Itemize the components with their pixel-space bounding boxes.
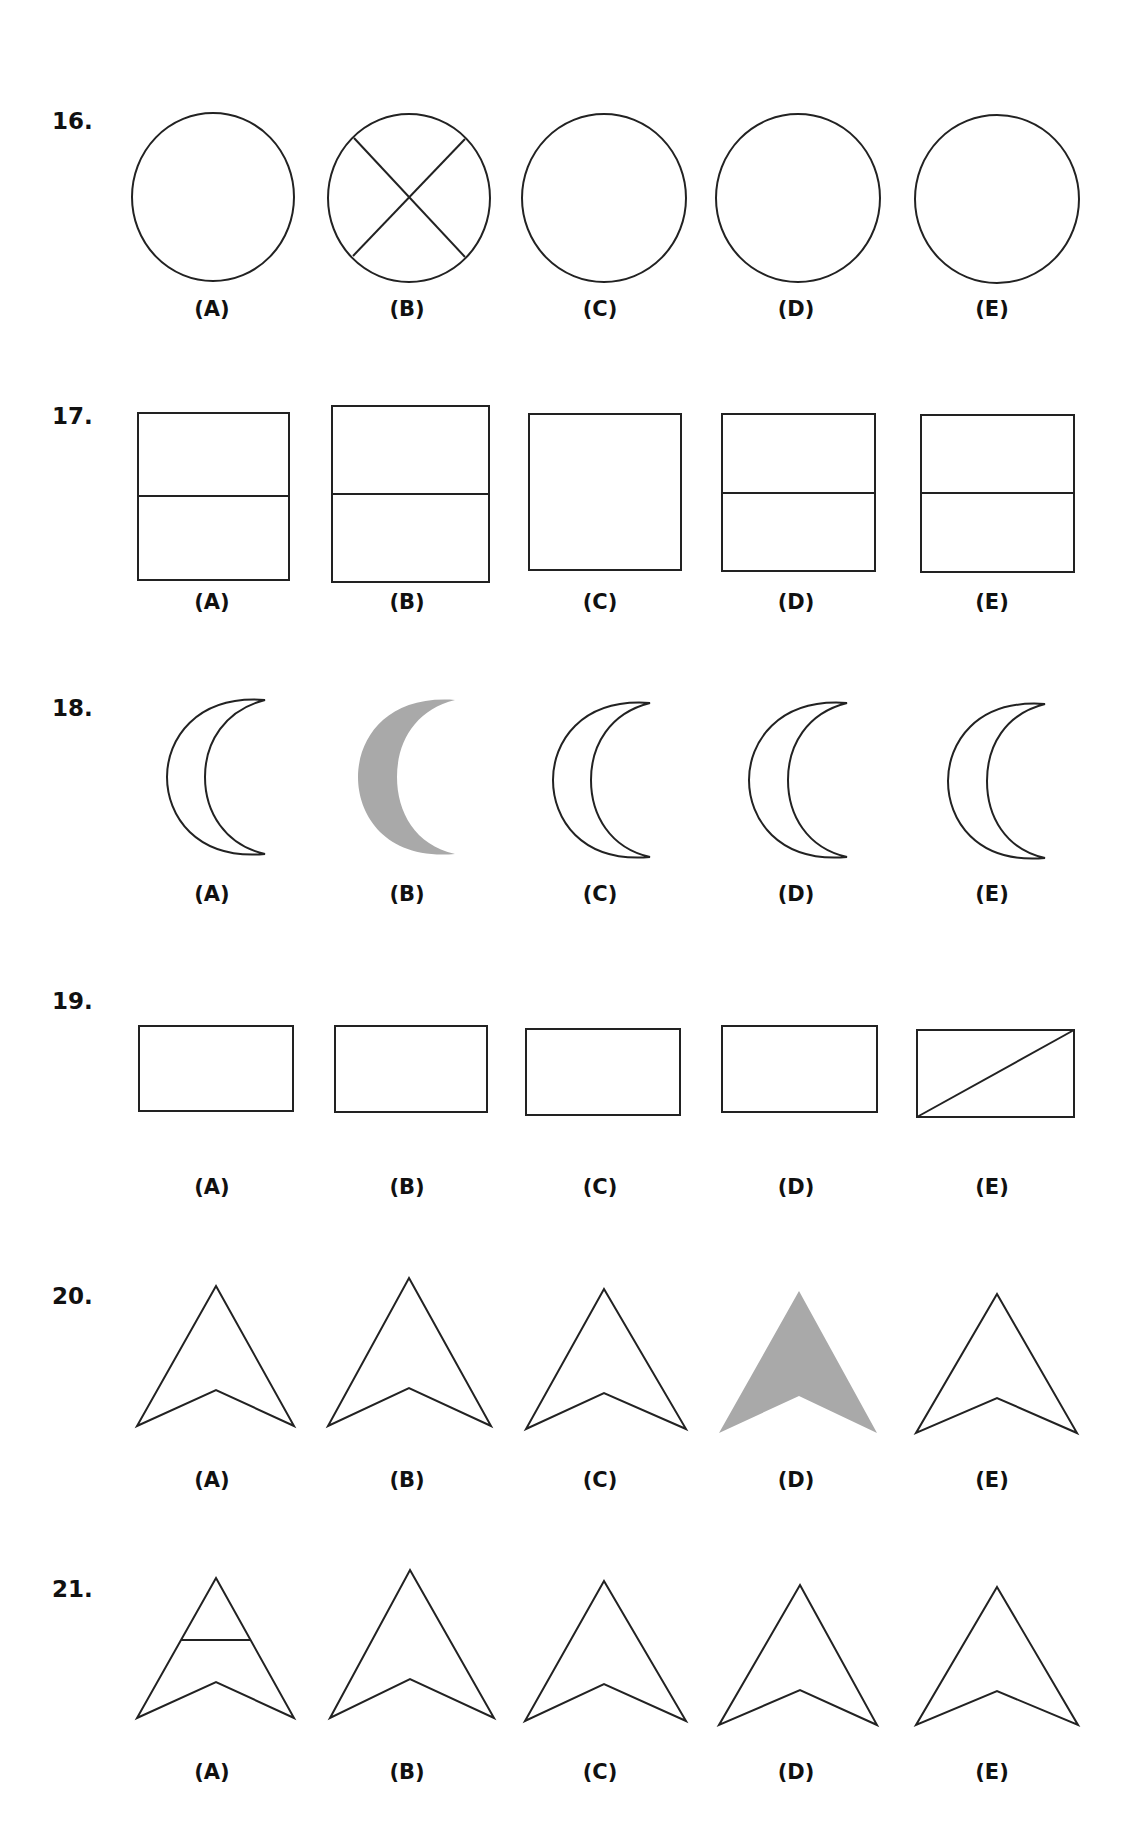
crescent-option-a[interactable] xyxy=(167,700,265,855)
option-label-17e: (E) xyxy=(952,590,1032,614)
question-16-figures xyxy=(132,113,1079,283)
option-label-17d: (D) xyxy=(756,590,836,614)
option-label-17c: (C) xyxy=(560,590,640,614)
arrowhead-option-e[interactable] xyxy=(916,1587,1078,1725)
arrowhead-option-c[interactable] xyxy=(526,1289,686,1429)
option-label-20b: (B) xyxy=(367,1468,447,1492)
crescent-option-b-shaded[interactable] xyxy=(358,700,455,855)
option-label-18c: (C) xyxy=(560,882,640,906)
rect-option-d[interactable] xyxy=(722,414,875,571)
circle-x-option-b[interactable] xyxy=(328,114,490,282)
option-label-16e: (E) xyxy=(952,297,1032,321)
question-19-figures xyxy=(139,1026,1074,1117)
arrowhead-option-d[interactable] xyxy=(719,1585,877,1725)
option-label-16c: (C) xyxy=(560,297,640,321)
circle-option-e[interactable] xyxy=(915,115,1079,283)
rect-option-c[interactable] xyxy=(529,414,681,570)
option-label-19d: (D) xyxy=(756,1175,836,1199)
wide-rect-option-c[interactable] xyxy=(526,1029,680,1115)
option-label-20e: (E) xyxy=(952,1468,1032,1492)
figures-canvas xyxy=(0,0,1129,1838)
circle-option-a[interactable] xyxy=(132,113,294,281)
option-label-18a: (A) xyxy=(172,882,252,906)
option-label-21d: (D) xyxy=(756,1760,836,1784)
wide-rect-option-d[interactable] xyxy=(722,1026,877,1112)
option-label-16b: (B) xyxy=(367,297,447,321)
arrowhead-option-b[interactable] xyxy=(328,1278,491,1426)
option-label-16d: (D) xyxy=(756,297,836,321)
circle-option-c[interactable] xyxy=(522,114,686,282)
option-label-21c: (C) xyxy=(560,1760,640,1784)
rect-option-b[interactable] xyxy=(332,406,489,582)
wide-rect-option-a[interactable] xyxy=(139,1026,293,1111)
wide-rect-diagonal-option-e[interactable] xyxy=(917,1030,1074,1117)
option-label-19a: (A) xyxy=(172,1175,252,1199)
option-label-18d: (D) xyxy=(756,882,836,906)
question-20-figures xyxy=(137,1278,1077,1433)
arrowhead-option-a[interactable] xyxy=(137,1286,294,1426)
question-18-figures xyxy=(167,700,1045,859)
arrowhead-option-b[interactable] xyxy=(330,1570,494,1718)
option-label-16a: (A) xyxy=(172,297,252,321)
question-17-figures xyxy=(138,406,1074,582)
option-label-18b: (B) xyxy=(367,882,447,906)
arrowhead-crossbar-option-a[interactable] xyxy=(137,1578,294,1718)
wide-rect-option-b[interactable] xyxy=(335,1026,487,1112)
option-label-21b: (B) xyxy=(367,1760,447,1784)
option-label-18e: (E) xyxy=(952,882,1032,906)
crescent-option-c[interactable] xyxy=(553,703,650,858)
option-label-17a: (A) xyxy=(172,590,252,614)
test-page: 16. 17. 18. 19. 20. 21. xyxy=(0,0,1129,1838)
option-label-20a: (A) xyxy=(172,1468,252,1492)
option-label-19c: (C) xyxy=(560,1175,640,1199)
circle-option-d[interactable] xyxy=(716,114,880,282)
arrowhead-option-d-shaded[interactable] xyxy=(719,1291,877,1433)
option-label-20c: (C) xyxy=(560,1468,640,1492)
rect-option-a[interactable] xyxy=(138,413,289,580)
option-label-19e: (E) xyxy=(952,1175,1032,1199)
arrowhead-option-c[interactable] xyxy=(525,1581,686,1721)
arrowhead-option-e[interactable] xyxy=(916,1294,1077,1433)
crescent-option-e[interactable] xyxy=(948,704,1045,859)
crescent-option-d[interactable] xyxy=(749,703,847,858)
option-label-21a: (A) xyxy=(172,1760,252,1784)
option-label-20d: (D) xyxy=(756,1468,836,1492)
rect-option-e[interactable] xyxy=(921,415,1074,572)
option-label-17b: (B) xyxy=(367,590,447,614)
option-label-21e: (E) xyxy=(952,1760,1032,1784)
option-label-19b: (B) xyxy=(367,1175,447,1199)
question-21-figures xyxy=(137,1570,1078,1725)
